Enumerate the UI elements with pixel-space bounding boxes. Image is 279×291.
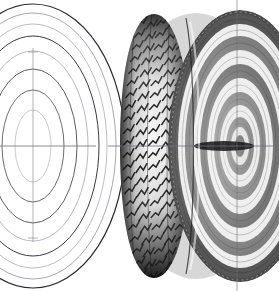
tire-illustration-figure xyxy=(0,0,279,291)
tire-illustration-canvas xyxy=(0,0,279,291)
rendered-tire xyxy=(118,0,279,291)
